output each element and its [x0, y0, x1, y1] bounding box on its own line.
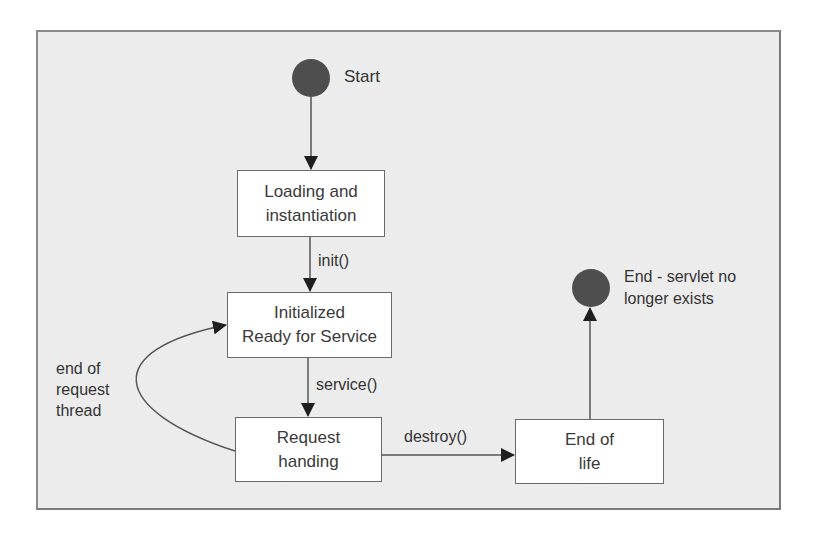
node-initialized-ready-for-service: Initialized Ready for Service [227, 292, 392, 358]
node-loading-and-instantiation: Loading and instantiation [237, 170, 385, 237]
node-end-of-life: End of life [515, 419, 664, 484]
edge-label-init: init() [318, 250, 349, 272]
node-request-handing: Request handing [235, 417, 382, 482]
end-label: End - servlet no longer exists [624, 266, 736, 310]
node-label: Request handing [277, 426, 340, 474]
node-label: Loading and instantiation [264, 180, 358, 228]
node-label: Initialized Ready for Service [242, 301, 377, 349]
start-label: Start [344, 66, 380, 88]
edge-label-service: service() [316, 374, 377, 396]
node-label: End of life [565, 428, 614, 476]
edge-label-destroy: destroy() [404, 426, 467, 448]
edge-label-end-of-request-thread: end of request thread [56, 358, 109, 421]
start-node-icon [292, 59, 330, 97]
end-node-icon [572, 269, 610, 307]
